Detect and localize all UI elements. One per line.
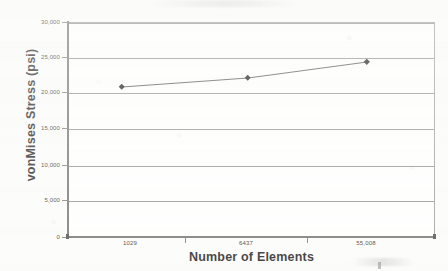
- y-axis-title: vonMises Stress (psi): [24, 35, 38, 195]
- data-point-marker: [119, 84, 125, 90]
- data-point-marker: [364, 59, 370, 65]
- series-markers: [119, 59, 370, 90]
- series-line: [122, 62, 367, 87]
- data-point-marker: [245, 75, 251, 81]
- series-line-chart: [0, 0, 448, 271]
- x-axis-title: Number of Elements: [68, 250, 435, 264]
- chart-screenshot: 30,000 25,000 20,000 15,000 10,000 5,000…: [0, 0, 448, 271]
